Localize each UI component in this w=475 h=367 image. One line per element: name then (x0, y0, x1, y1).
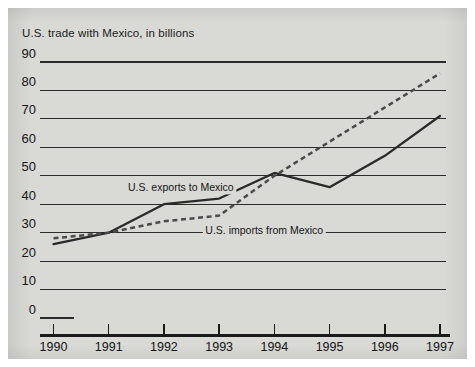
x-axis-tick-label: 1993 (205, 340, 233, 354)
x-axis-tick-label: 1996 (371, 340, 399, 354)
y-axis-tick-label: 40 (22, 188, 36, 203)
y-axis-tick-label: 0 (29, 302, 36, 317)
series-line-imports (54, 73, 441, 238)
series-annotation-label: U.S. imports from Mexico (205, 224, 323, 236)
x-axis (40, 324, 450, 336)
x-axis-tick-label: 1991 (95, 340, 123, 354)
chart-figure: U.S. trade with Mexico, in billions 0102… (0, 0, 475, 367)
x-axis-tick-label: 1997 (426, 340, 454, 354)
x-axis-tick-label: 1990 (40, 340, 68, 354)
line-chart-plot: 0102030405060708090 19901991199219931994… (0, 0, 475, 367)
x-axis-tick-label: 1995 (316, 340, 344, 354)
y-axis-tick-label: 20 (22, 245, 36, 260)
y-axis-tick-label: 90 (22, 46, 36, 61)
y-axis-tick-label: 10 (22, 273, 36, 288)
y-axis-tick-label: 50 (22, 159, 36, 174)
y-axis-labels: 0102030405060708090 (22, 46, 36, 317)
x-axis-labels: 19901991199219931994199519961997 (40, 340, 454, 354)
y-axis-tick-label: 30 (22, 216, 36, 231)
x-axis-tick-label: 1994 (260, 340, 288, 354)
y-axis-tick-label: 80 (22, 74, 36, 89)
gridlines (40, 62, 446, 318)
x-axis-tick-label: 1992 (150, 340, 178, 354)
series-annotation-label: U.S. exports to Mexico (128, 181, 234, 193)
y-axis-tick-label: 70 (22, 102, 36, 117)
data-series (54, 73, 441, 244)
y-axis-tick-label: 60 (22, 131, 36, 146)
